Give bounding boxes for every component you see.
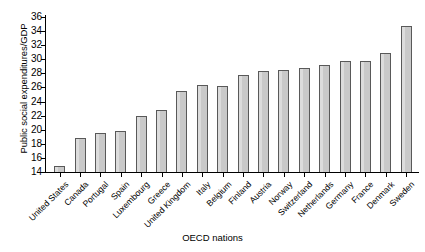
bar-chart: Public social expenditures/GDP 141618202… bbox=[0, 0, 425, 252]
x-axis-tick-labels: United StatesCanadaPortugalSpainLuxembou… bbox=[0, 0, 425, 252]
x-axis-title: OECD nations bbox=[0, 232, 425, 243]
